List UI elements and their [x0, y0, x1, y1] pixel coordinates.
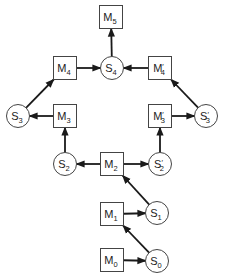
node-label-subscript: 0 — [158, 261, 162, 270]
arrow-S3p-to-M4p — [171, 80, 198, 108]
arrow-S0-to-M1 — [123, 226, 149, 253]
node-label-subscript: 2 — [66, 164, 70, 173]
machine-node-M4: M4 — [54, 57, 77, 80]
node-label-subscript: 2 — [160, 164, 164, 173]
node-label-base: S — [58, 158, 65, 170]
node-label-subscript: 4 — [113, 68, 117, 77]
machine-node-M3: M3 — [54, 105, 77, 128]
node-label-base: S — [150, 255, 157, 267]
arrow-S4-to-M5 — [111, 29, 112, 57]
state-node-S2: S2 — [54, 153, 77, 176]
node-label-base: M — [103, 11, 112, 23]
state-node-S1: S1 — [146, 202, 169, 225]
node-label-subscript: 3 — [19, 116, 23, 125]
node-label-subscript: 4 — [161, 68, 165, 77]
node-label-base: M — [104, 208, 113, 220]
node-label-base: S — [150, 207, 157, 219]
arrow-S1-to-M2 — [123, 176, 150, 205]
machine-node-M5: M5 — [100, 6, 123, 29]
state-node-S2p: S′2 — [149, 153, 172, 176]
node-label-subscript: 3 — [161, 116, 165, 125]
node-label-subscript: 3 — [67, 116, 71, 125]
node-label-base: M — [57, 62, 66, 74]
node-label-subscript: 2 — [114, 164, 118, 173]
node-label-subscript: 3 — [206, 116, 210, 125]
node-label-subscript: 0 — [114, 260, 118, 269]
node-label-base: S — [11, 110, 18, 122]
node-label-subscript: 5 — [113, 17, 117, 26]
node-label-base: M — [57, 110, 66, 122]
state-node-S3: S3 — [7, 105, 30, 128]
machine-node-M2: M2 — [101, 153, 124, 176]
machine-node-M3p: M′3 — [149, 105, 172, 128]
node-label-base: M — [104, 158, 113, 170]
state-transition-diagram: M5S4M4M′4S3M3M′3S′3S2M2S′2M1S1M0S0 — [0, 0, 230, 275]
state-node-S4: S4 — [101, 57, 124, 80]
node-label-subscript: 4 — [67, 68, 71, 77]
machine-node-M1: M1 — [101, 203, 124, 226]
node-label-base: S — [105, 62, 112, 74]
node-label-base: M — [104, 254, 113, 266]
arrow-S3-to-M4 — [26, 80, 54, 108]
machine-node-M0: M0 — [101, 249, 124, 272]
node-label-subscript: 1 — [114, 214, 118, 223]
machine-node-M4p: M′4 — [149, 57, 172, 80]
state-node-S3p: S′3 — [195, 105, 218, 128]
state-node-S0: S0 — [146, 250, 169, 273]
node-label-subscript: 1 — [158, 213, 162, 222]
